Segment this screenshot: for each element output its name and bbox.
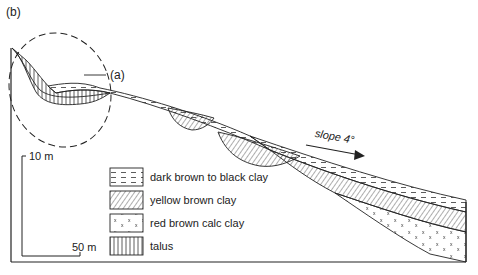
inset-ref-label: (a)	[110, 69, 125, 81]
legend-swatch-yellow-brown-clay	[110, 191, 143, 209]
horizontal-scale-label: 50 m	[72, 242, 96, 253]
legend-label-dark-brown-clay: dark brown to black clay	[150, 172, 268, 183]
layer-yellow-brown-clay	[270, 150, 466, 232]
cross-section-diagram: x x	[0, 0, 478, 275]
legend-swatch-red-brown-calc-clay	[110, 214, 143, 232]
legend-label-red-brown-calc-clay: red brown calc clay	[150, 218, 244, 229]
panel-label: (b)	[6, 6, 21, 18]
legend-swatch-dark-brown-clay	[110, 168, 143, 186]
legend-swatch-talus	[110, 237, 143, 255]
legend-label-talus: talus	[150, 241, 173, 252]
vertical-scale-bar	[22, 156, 26, 256]
vertical-scale-label: 10 m	[29, 151, 53, 162]
legend-label-yellow-brown-clay: yellow brown clay	[150, 195, 236, 206]
lens-1	[168, 108, 214, 130]
legend-swatches	[110, 168, 143, 255]
layer-talus	[12, 48, 110, 105]
